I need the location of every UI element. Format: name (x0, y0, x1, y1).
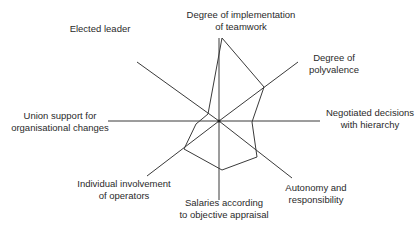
radar-axes (108, 38, 320, 200)
axis-label-teamwork: Degree of implementation of teamwork (181, 9, 301, 32)
axis-line-involvement (147, 121, 219, 176)
axis-label-polyvalence: Degree of polyvalence (299, 52, 369, 75)
axis-line-leader (137, 62, 219, 121)
axis-label-involvement: Individual involvement of operators (69, 178, 179, 201)
radar-center (217, 119, 220, 122)
axis-label-leader: Elected leader (60, 23, 140, 35)
axis-label-union: Union support for organisational changes (10, 110, 110, 133)
axis-label-autonomy: Autonomy and responsibility (276, 182, 356, 205)
axis-label-salaries: Salaries according to objective appraisa… (169, 197, 279, 220)
axis-line-polyvalence (219, 62, 298, 121)
axis-label-negotiated: Negotiated decisions with hierarchy (320, 107, 420, 130)
